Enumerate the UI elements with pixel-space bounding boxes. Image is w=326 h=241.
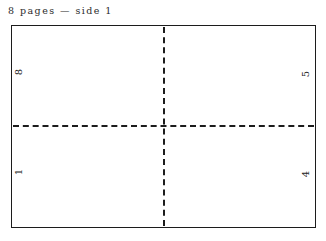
page-number-bottom-left: 1 <box>12 165 26 179</box>
imposition-sheet-diagram: 8 pages — side 1 8 5 1 4 <box>0 0 326 241</box>
fold-line-horizontal-icon <box>13 125 314 127</box>
sheet-caption: 8 pages — side 1 <box>8 4 113 17</box>
page-number-bottom-right: 4 <box>299 167 313 181</box>
page-number-top-left: 8 <box>12 65 26 79</box>
page-number-top-right: 5 <box>299 67 313 81</box>
